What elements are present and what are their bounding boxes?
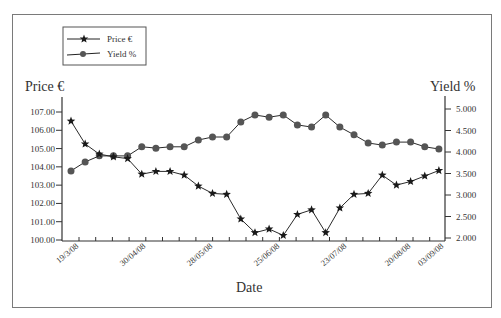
price-point (435, 166, 444, 174)
right-tick-label: 2.500 (456, 212, 477, 222)
right-axis-title: Yield % (430, 79, 476, 94)
left-tick-label: 104.00 (30, 162, 55, 172)
yield-point (294, 121, 301, 128)
price-point (208, 189, 217, 197)
yield-series (68, 112, 443, 175)
yield-point (379, 142, 386, 149)
legend-yield-label: Yield % (107, 49, 137, 59)
x-tick-label: 23/07/08 (319, 241, 349, 268)
yield-point (322, 112, 329, 119)
left-axis-ticks: 100.00101.00102.00103.00104.00105.00106.… (30, 107, 62, 245)
yield-point (138, 143, 145, 150)
right-tick-label: 2.000 (456, 233, 477, 243)
price-point (321, 228, 330, 236)
yield-point (308, 124, 315, 131)
x-axis-ticks: 19/3/0830/04/0828/05/0825/06/0823/07/082… (54, 237, 445, 268)
left-tick-label: 105.00 (30, 144, 55, 154)
left-tick-label: 101.00 (30, 217, 55, 227)
price-point (194, 182, 203, 190)
star-marker-icon (80, 35, 89, 43)
price-point (421, 172, 430, 180)
x-axis-title: Date (236, 280, 262, 295)
price-point (293, 210, 302, 218)
yield-point (237, 118, 244, 125)
yield-point (435, 145, 442, 152)
legend: Price € Yield % (63, 27, 146, 65)
price-point (307, 205, 316, 213)
price-series (67, 117, 444, 240)
right-tick-label: 3.500 (456, 169, 477, 179)
yield-point (223, 133, 230, 140)
yield-point (280, 112, 287, 119)
price-point (279, 231, 288, 239)
left-tick-label: 107.00 (30, 107, 55, 117)
left-tick-label: 103.00 (30, 180, 55, 190)
price-point (406, 177, 415, 185)
legend-price-label: Price € (107, 34, 133, 44)
right-tick-label: 4.500 (456, 126, 477, 136)
left-tick-label: 106.00 (30, 125, 55, 135)
x-tick-label: 25/06/08 (252, 241, 282, 268)
price-point (392, 181, 401, 189)
right-tick-label: 5.000 (456, 104, 477, 114)
yield-point (407, 139, 414, 146)
yield-point (393, 139, 400, 146)
x-tick-label: 30/04/08 (118, 241, 148, 268)
yield-point (82, 158, 89, 165)
price-point (265, 225, 274, 233)
price-point (67, 117, 76, 125)
circle-marker-icon (80, 51, 86, 57)
yield-point (152, 145, 159, 152)
yield-point (421, 143, 428, 150)
left-tick-label: 100.00 (30, 235, 55, 245)
yield-point (68, 167, 75, 174)
x-tick-label: 03/09/08 (416, 241, 446, 268)
x-tick-label: 20/08/08 (383, 241, 413, 268)
yield-point (266, 114, 273, 121)
yield-point (167, 143, 174, 150)
yield-point (365, 139, 372, 146)
yield-point (209, 133, 216, 140)
price-point (222, 190, 231, 198)
x-tick-label: 19/3/08 (54, 241, 80, 265)
right-axis-ticks: 2.0002.5003.0003.5004.0004.5005.000 (445, 104, 477, 243)
yield-point (351, 131, 358, 138)
yield-point (195, 136, 202, 143)
left-axis-title: Price € (25, 79, 64, 94)
yield-point (251, 112, 258, 119)
x-tick-label: 28/05/08 (185, 241, 215, 268)
dual-axis-line-chart: Price € Yield % Price € Yield % Date 100… (0, 0, 501, 318)
yield-point (336, 124, 343, 131)
left-tick-label: 102.00 (30, 198, 55, 208)
yield-point (181, 143, 188, 150)
right-tick-label: 3.000 (456, 190, 477, 200)
right-tick-label: 4.000 (456, 147, 477, 157)
price-point (152, 167, 161, 175)
price-point (166, 167, 175, 175)
